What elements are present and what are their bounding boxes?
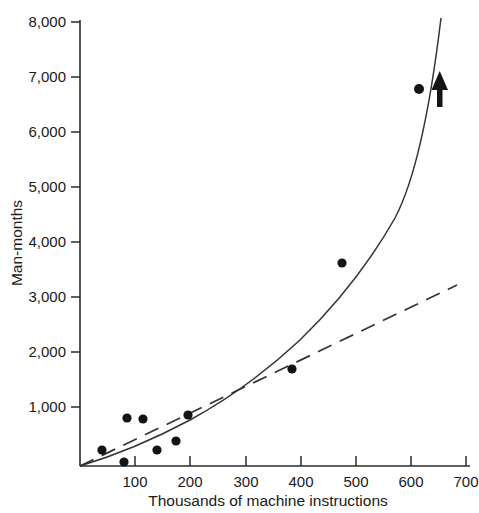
data-point: [152, 445, 161, 454]
y-tick-label-1000: 1,000: [28, 398, 66, 415]
y-tick-label-4000: 4,000: [28, 233, 66, 250]
data-point: [287, 364, 296, 373]
data-point: [97, 445, 106, 454]
data-point: [119, 457, 128, 466]
y-tick-label-2000: 2,000: [28, 343, 66, 360]
data-point: [337, 258, 346, 267]
y-axis-title: Man-months: [8, 200, 25, 286]
x-tick-label-400: 400: [288, 473, 313, 490]
x-tick-label-600: 600: [398, 473, 423, 490]
x-tick-label-100: 100: [122, 473, 147, 490]
x-tick-label-200: 200: [177, 473, 202, 490]
y-tick-label-6000: 6,000: [28, 123, 66, 140]
y-tick-label-3000: 3,000: [28, 288, 66, 305]
x-tick-label-700: 700: [453, 473, 478, 490]
chart-figure: 8,000 7,000 6,000 5,000 4,000 3,000 2,00…: [0, 0, 479, 513]
x-tick-label-300: 300: [233, 473, 258, 490]
data-point: [138, 414, 147, 423]
y-tick-label-8000: 8,000: [28, 13, 66, 30]
data-point: [183, 410, 192, 419]
data-point: [171, 436, 180, 445]
x-axis-title: Thousands of machine instructions: [148, 492, 388, 509]
scatter-plot: 8,000 7,000 6,000 5,000 4,000 3,000 2,00…: [0, 0, 479, 513]
data-point: [122, 413, 131, 422]
y-tick-label-5000: 5,000: [28, 178, 66, 195]
data-point: [414, 84, 424, 94]
y-tick-label-7000: 7,000: [28, 68, 66, 85]
x-tick-label-500: 500: [343, 473, 368, 490]
